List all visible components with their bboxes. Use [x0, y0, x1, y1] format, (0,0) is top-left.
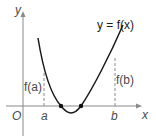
function-curve	[38, 25, 123, 113]
b-label: b	[111, 110, 118, 122]
root-point-left	[59, 104, 63, 108]
fb-label: f(b)	[116, 74, 134, 86]
fa-label: f(a)	[24, 81, 42, 93]
y-axis-label: y	[15, 4, 21, 16]
a-label: a	[41, 110, 48, 122]
origin-label: O	[12, 110, 21, 122]
curve-label: y = f(x)	[97, 19, 134, 31]
x-axis-label: x	[142, 109, 148, 121]
root-point-right	[79, 104, 83, 108]
y-axis-arrow-icon	[21, 11, 26, 17]
function-graph-diagram: y x O a b y = f(x) f(a) f(b)	[0, 0, 156, 140]
